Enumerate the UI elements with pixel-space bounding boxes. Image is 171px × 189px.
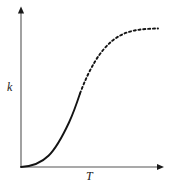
y-axis-label: k bbox=[7, 81, 12, 93]
plot-area bbox=[0, 0, 171, 189]
y-axis-arrowhead bbox=[18, 7, 24, 14]
x-axis-arrowhead bbox=[157, 164, 164, 170]
figure-canvas: k T bbox=[0, 0, 171, 189]
x-axis-label: T bbox=[86, 170, 93, 182]
curve-dotted-segment bbox=[80, 29, 158, 94]
curve-solid-segment bbox=[21, 94, 80, 168]
